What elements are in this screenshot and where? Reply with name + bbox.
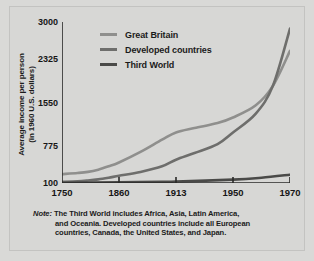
y-tick-label: 775	[43, 141, 58, 151]
note-label: Note:	[33, 209, 52, 218]
note-line-3: countries, Canada, the United States, an…	[33, 228, 291, 238]
legend-label: Developed countries	[125, 45, 212, 55]
legend-label: Great Britain	[125, 30, 178, 40]
x-tick-label: 1950	[222, 187, 243, 198]
legend: Great BritainDeveloped countriesThird Wo…	[100, 27, 212, 72]
legend-swatch-icon	[100, 63, 117, 66]
y-tick-label: 3000	[38, 17, 58, 27]
legend-item-third-world[interactable]: Third World	[100, 57, 212, 72]
y-axis-title-line-1: Average income per person	[17, 35, 27, 175]
legend-swatch-icon	[100, 48, 117, 51]
figure: Average income per person (in 1960 U.S. …	[0, 0, 314, 261]
legend-item-great-britain[interactable]: Great Britain	[100, 27, 212, 42]
y-axis-title-line-2: (in 1960 U.S. dollars)	[26, 35, 36, 175]
x-tick-label: 1970	[279, 187, 300, 198]
y-axis-title: Average income per person (in 1960 U.S. …	[17, 35, 36, 175]
legend-item-developed-countries[interactable]: Developed countries	[100, 42, 212, 57]
x-tick-label: 1750	[51, 187, 72, 198]
x-tick-label: 1913	[165, 187, 186, 198]
legend-swatch-icon	[100, 33, 117, 36]
y-tick-label: 2325	[38, 54, 58, 64]
y-tick-label: 1550	[38, 98, 58, 108]
legend-label: Third World	[125, 60, 174, 70]
x-tick-label: 1860	[108, 187, 129, 198]
note-line-2: and Oceania. Developed countries include…	[33, 219, 291, 229]
note-line-1: The Third World includes Africa, Asia, L…	[54, 209, 239, 218]
chart-note: Note: The Third World includes Africa, A…	[33, 209, 291, 238]
